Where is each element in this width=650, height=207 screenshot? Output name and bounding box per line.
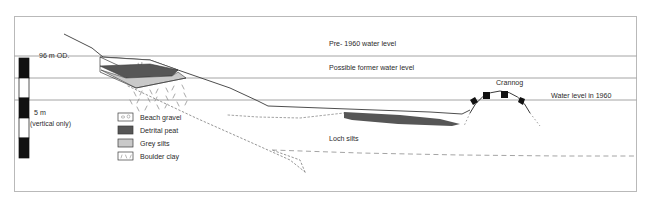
legend-swatch-detrital-peat [118,126,133,134]
diagram-frame [15,17,637,192]
legend-label-detrital-peat: Detrital peat [140,127,178,135]
label-loch-silts: Loch silts [329,135,359,143]
legend-label-beach-gravel: Beach gravel [140,114,182,122]
scale-unit-label: 5 m [34,109,46,117]
scale-seg-2 [19,78,29,98]
scale-seg-1 [19,58,29,78]
scale-seg-3 [19,98,29,118]
cross-section-diagram: 96 m OD. 5 m (vertical only) Pre- 1960 w… [0,0,650,207]
legend-label-grey-silts: Grey silts [140,140,170,148]
label-pre-1960-water-level: Pre- 1960 water level [329,40,396,48]
scale-bar [19,58,29,158]
scale-qualifier-label: (vertical only) [30,120,71,128]
figure-canvas: 96 m OD. 5 m (vertical only) Pre- 1960 w… [0,0,650,207]
crannog-block-2 [483,92,490,99]
label-water-level-1960: Water level in 1960 [551,92,612,100]
scale-seg-5 [19,138,29,158]
legend-swatch-beach-gravel [118,113,133,121]
legend-label-boulder-clay: Boulder clay [140,153,179,161]
scale-top-label: 96 m OD. [39,52,69,60]
label-possible-former-water-level: Possible former water level [329,64,415,72]
crannog-block-3 [501,91,508,98]
legend-swatch-grey-silts [118,139,133,147]
label-crannog: Crannog [496,79,523,87]
scale-seg-4 [19,118,29,138]
